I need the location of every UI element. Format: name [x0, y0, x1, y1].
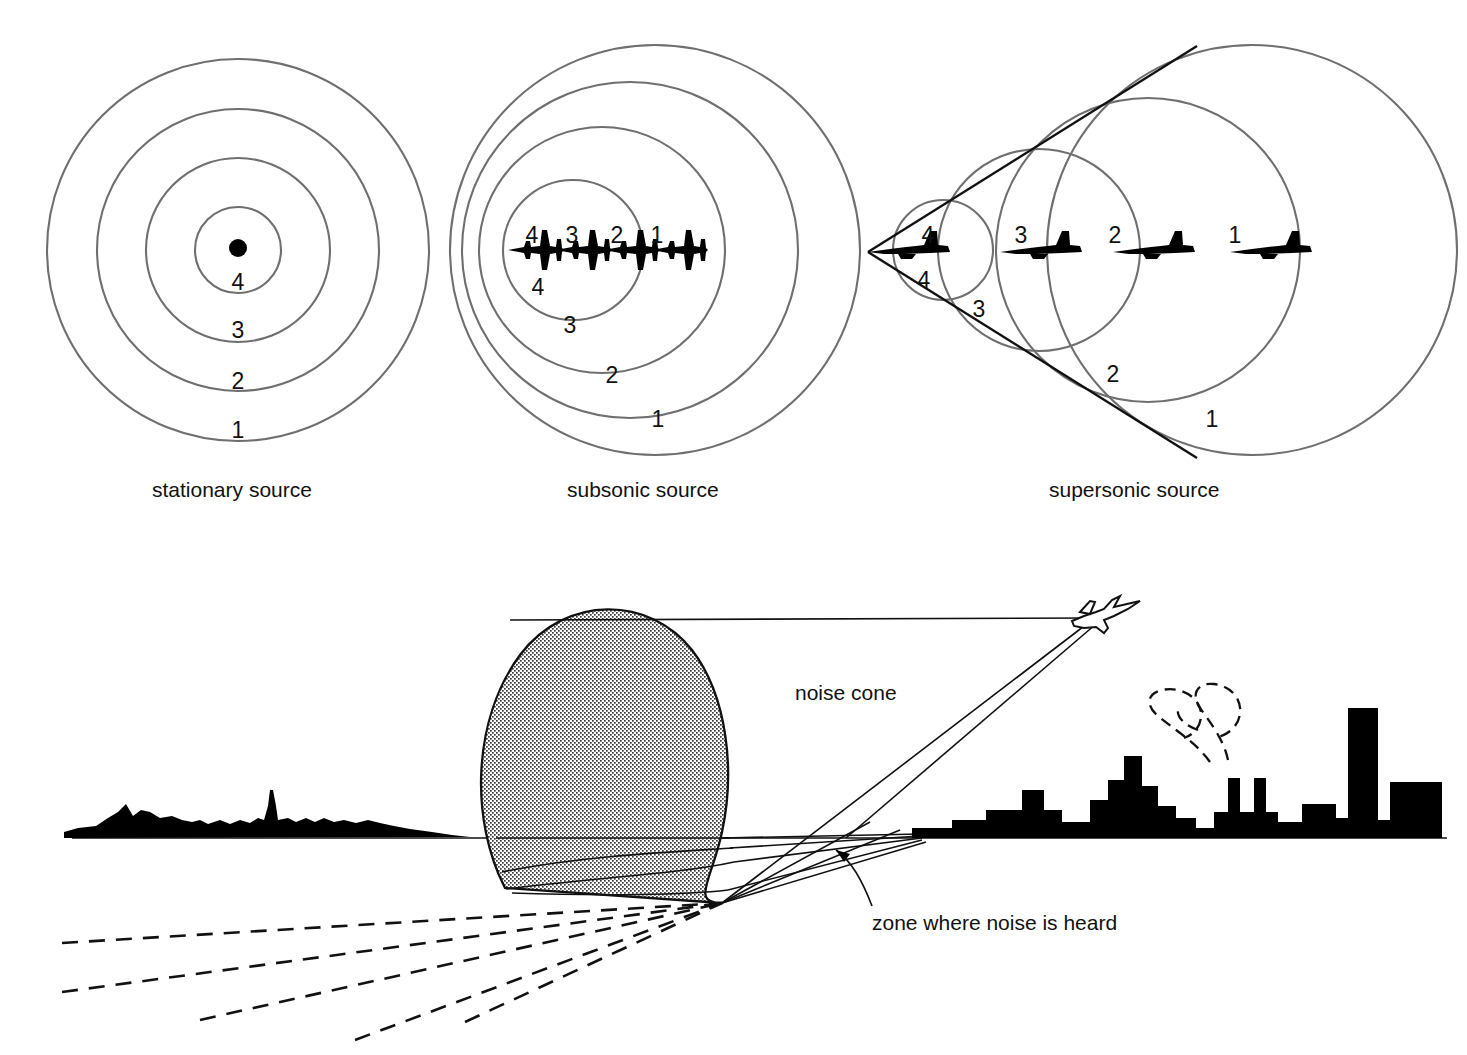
wave-label-4: 4	[232, 269, 245, 295]
label-noise-cone: noise cone	[795, 681, 897, 704]
aircraft-label-4: 4	[526, 222, 539, 248]
wave-label-1: 1	[232, 417, 245, 443]
aircraft-label-1: 1	[651, 222, 664, 248]
wave-label-3: 3	[564, 312, 577, 338]
wave-label-1: 1	[652, 406, 665, 432]
wave-label-3: 3	[232, 317, 245, 343]
wave-label-4: 4	[532, 274, 545, 300]
wave-label-2: 2	[1107, 361, 1120, 387]
panel-caption-supersonic: supersonic source	[1049, 478, 1219, 501]
panel-caption-subsonic: subsonic source	[567, 478, 719, 501]
wave-label-4: 4	[918, 267, 931, 293]
aircraft-label-1: 1	[1229, 222, 1242, 248]
aircraft-label-3: 3	[566, 222, 579, 248]
sonic-boom-figure: 4 3 2 1 stationary source 4 3 2 1 4 3 2 …	[0, 0, 1467, 1055]
wave-label-1: 1	[1206, 406, 1219, 432]
wave-label-3: 3	[973, 296, 986, 322]
wave-label-2: 2	[232, 368, 245, 394]
source-dot-icon	[229, 239, 247, 257]
aircraft-label-3: 3	[1015, 222, 1028, 248]
aircraft-label-4: 4	[922, 222, 935, 248]
wave-label-2: 2	[606, 362, 619, 388]
aircraft-label-2: 2	[611, 222, 624, 248]
label-zone-where-noise-is-heard: zone where noise is heard	[872, 911, 1117, 934]
aircraft-label-2: 2	[1109, 222, 1122, 248]
panel-caption-stationary: stationary source	[152, 478, 312, 501]
